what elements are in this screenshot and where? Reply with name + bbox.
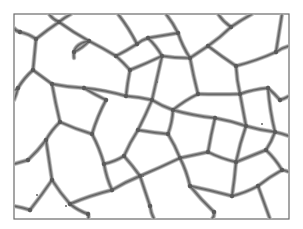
junction-node [128, 68, 132, 72]
junction-node [82, 86, 86, 90]
junction-node [58, 120, 62, 124]
junction-node [230, 194, 234, 198]
junction-node [171, 108, 175, 112]
junction-node [178, 156, 182, 160]
junction-node [146, 36, 150, 40]
speck [156, 81, 158, 83]
junction-node [122, 154, 126, 158]
junction-node [34, 37, 38, 41]
speck [261, 123, 263, 125]
junction-node [110, 188, 114, 192]
junction-node [213, 116, 217, 120]
junction-node [206, 150, 210, 154]
junction-node [176, 31, 180, 35]
junction-node [16, 86, 20, 90]
junction-node [212, 210, 216, 214]
junction-node [86, 212, 90, 216]
junction-node [234, 64, 238, 68]
junction-node [273, 130, 277, 134]
foam-micrograph [0, 0, 303, 229]
junction-node [124, 94, 128, 98]
junction-node [104, 98, 108, 102]
junction-node [50, 178, 54, 182]
junction-node [274, 50, 278, 54]
junction-node [196, 92, 200, 96]
junction-node [280, 168, 284, 172]
junction-node [31, 68, 35, 72]
junction-node [18, 30, 22, 34]
junction-node [148, 204, 152, 208]
junction-node [26, 158, 30, 162]
junction-node [135, 42, 139, 46]
junction-node [244, 124, 248, 128]
junction-node [188, 56, 192, 60]
speck [65, 205, 67, 207]
junction-node [72, 50, 76, 54]
junction-node [264, 148, 268, 152]
junction-node [188, 184, 192, 188]
junction-node [229, 25, 233, 29]
junction-node [68, 202, 72, 206]
junction-node [90, 132, 94, 136]
junction-node [50, 82, 54, 86]
junction-node [114, 54, 118, 58]
junction-node [278, 98, 282, 102]
junction-node [206, 44, 210, 48]
junction-node [87, 39, 91, 43]
junction-node [28, 208, 32, 212]
junction-node [136, 128, 140, 132]
junction-node [150, 98, 154, 102]
junction-node [102, 162, 106, 166]
junction-node [256, 184, 260, 188]
junction-node [44, 138, 48, 142]
speck [142, 175, 144, 177]
junction-node [57, 20, 61, 24]
junction-node [266, 86, 270, 90]
junction-node [160, 54, 164, 58]
junction-node [138, 174, 142, 178]
speck [36, 194, 38, 196]
junction-node [234, 160, 238, 164]
junction-node [238, 92, 242, 96]
junction-node [166, 132, 170, 136]
